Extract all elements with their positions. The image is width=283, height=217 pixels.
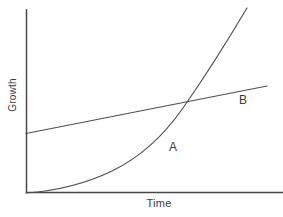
x-axis-label: Time — [146, 197, 171, 209]
y-axis-label: Growth — [7, 78, 18, 111]
curve-b-label: B — [239, 93, 247, 107]
curve-a-label: A — [169, 140, 177, 154]
chart-canvas — [0, 0, 283, 217]
curve-a-exponential — [26, 8, 247, 193]
curve-b-linear — [26, 86, 267, 134]
growth-vs-time-figure: Growth Time A B — [0, 0, 283, 217]
